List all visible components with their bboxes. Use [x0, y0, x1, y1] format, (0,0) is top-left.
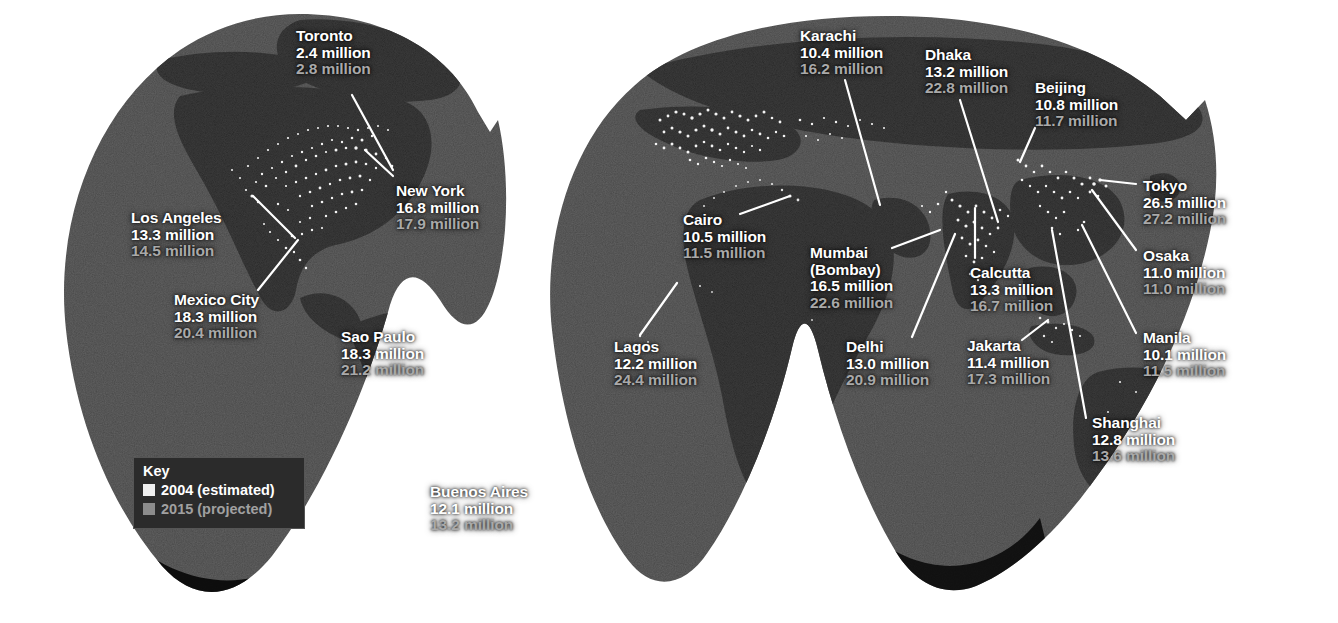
city-pop-2004-manila: 10.1 million: [1143, 347, 1226, 364]
city-label-osaka: Osaka11.0 million11.0 million: [1143, 248, 1225, 298]
key-swatch-2004: [143, 484, 155, 496]
city-name-los-angeles: Los Angeles: [131, 210, 222, 227]
city-pop-2015-calcutta: 16.7 million: [970, 298, 1053, 315]
city-label-cairo: Cairo10.5 million11.5 million: [683, 212, 766, 262]
city-pop-2015-manila: 11.5 million: [1143, 363, 1226, 380]
leader-line-sao-paulo: [424, 340, 495, 392]
key-label-2004: 2004 (estimated): [161, 483, 275, 498]
city-label-tokyo: Tokyo26.5 million27.2 million: [1143, 178, 1226, 228]
city-name-osaka: Osaka: [1143, 248, 1225, 265]
city-pop-2015-mumbai: 22.6 million: [810, 295, 893, 312]
city-pop-2015-beijing: 11.7 million: [1035, 113, 1118, 130]
city-label-delhi: Delhi13.0 million20.9 million: [846, 339, 929, 389]
city-name-new-york: New York: [396, 183, 479, 200]
city-pop-2004-shanghai: 12.8 million: [1092, 432, 1175, 449]
city-pop-2004-tokyo: 26.5 million: [1143, 195, 1226, 212]
city-pop-2015-tokyo: 27.2 million: [1143, 211, 1226, 228]
city-pop-2015-osaka: 11.0 million: [1143, 281, 1225, 298]
city-name-shanghai: Shanghai: [1092, 415, 1175, 432]
city-name-jakarta: Jakarta: [967, 338, 1050, 355]
city-pop-2015-los-angeles: 14.5 million: [131, 243, 222, 260]
city-name-alt-mumbai: (Bombay): [810, 262, 893, 279]
city-name-dhaka: Dhaka: [925, 47, 1008, 64]
city-name-manila: Manila: [1143, 330, 1226, 347]
city-name-buenos-aires: Buenos Aires: [430, 484, 528, 501]
city-pop-2015-toronto: 2.8 million: [296, 61, 371, 78]
city-pop-2015-buenos-aires: 13.2 million: [430, 517, 528, 534]
city-pop-2004-beijing: 10.8 million: [1035, 97, 1118, 114]
city-name-calcutta: Calcutta: [970, 265, 1053, 282]
city-name-sao-paulo: Sao Paulo: [341, 329, 424, 346]
city-pop-2004-los-angeles: 13.3 million: [131, 227, 222, 244]
city-pop-2004-new-york: 16.8 million: [396, 200, 479, 217]
city-pop-2004-lagos: 12.2 million: [614, 356, 697, 373]
city-name-mumbai: Mumbai: [810, 245, 893, 262]
city-pop-2015-karachi: 16.2 million: [800, 61, 883, 78]
key-label-2015: 2015 (projected): [161, 502, 272, 517]
city-name-cairo: Cairo: [683, 212, 766, 229]
city-pop-2004-jakarta: 11.4 million: [967, 355, 1050, 372]
city-pop-2004-calcutta: 13.3 million: [970, 282, 1053, 299]
key-row-2004: 2004 (estimated): [143, 481, 304, 500]
city-pop-2004-toronto: 2.4 million: [296, 45, 371, 62]
city-pop-2015-new-york: 17.9 million: [396, 216, 479, 233]
city-label-dhaka: Dhaka13.2 million22.8 million: [925, 47, 1008, 97]
city-name-delhi: Delhi: [846, 339, 929, 356]
city-name-mexico-city: Mexico City: [174, 292, 259, 309]
city-label-mexico-city: Mexico City18.3 million20.4 million: [174, 292, 259, 342]
city-label-beijing: Beijing10.8 million11.7 million: [1035, 80, 1118, 130]
city-pop-2015-cairo: 11.5 million: [683, 245, 766, 262]
city-name-toronto: Toronto: [296, 28, 371, 45]
city-name-tokyo: Tokyo: [1143, 178, 1226, 195]
map-key: Key 2004 (estimated) 2015 (projected): [133, 457, 305, 529]
city-label-los-angeles: Los Angeles13.3 million14.5 million: [131, 210, 222, 260]
world-map-figure: Toronto2.4 million2.8 millionNew York16.…: [0, 0, 1338, 623]
city-label-jakarta: Jakarta11.4 million17.3 million: [967, 338, 1050, 388]
city-name-beijing: Beijing: [1035, 80, 1118, 97]
city-label-shanghai: Shanghai12.8 million13.6 million: [1092, 415, 1175, 465]
key-title: Key: [143, 463, 304, 480]
city-pop-2004-karachi: 10.4 million: [800, 45, 883, 62]
city-label-toronto: Toronto2.4 million2.8 million: [296, 28, 371, 78]
city-name-lagos: Lagos: [614, 339, 697, 356]
city-pop-2004-mexico-city: 18.3 million: [174, 309, 259, 326]
key-row-2015: 2015 (projected): [143, 500, 304, 519]
city-label-sao-paulo: Sao Paulo18.3 million21.2 million: [341, 329, 424, 379]
city-pop-2015-mexico-city: 20.4 million: [174, 325, 259, 342]
city-pop-2004-sao-paulo: 18.3 million: [341, 346, 424, 363]
city-pop-2004-dhaka: 13.2 million: [925, 64, 1008, 81]
city-label-mumbai: Mumbai(Bombay)16.5 million22.6 million: [810, 245, 893, 312]
city-pop-2015-sao-paulo: 21.2 million: [341, 362, 424, 379]
city-label-new-york: New York16.8 million17.9 million: [396, 183, 479, 233]
key-swatch-2015: [143, 503, 155, 515]
city-pop-2015-shanghai: 13.6 million: [1092, 448, 1175, 465]
city-pop-2015-delhi: 20.9 million: [846, 372, 929, 389]
city-label-lagos: Lagos12.2 million24.4 million: [614, 339, 697, 389]
city-label-manila: Manila10.1 million11.5 million: [1143, 330, 1226, 380]
city-pop-2015-lagos: 24.4 million: [614, 372, 697, 389]
city-pop-2015-jakarta: 17.3 million: [967, 371, 1050, 388]
city-label-karachi: Karachi10.4 million16.2 million: [800, 28, 883, 78]
city-pop-2004-osaka: 11.0 million: [1143, 265, 1225, 282]
city-pop-2004-mumbai: 16.5 million: [810, 278, 893, 295]
city-label-calcutta: Calcutta13.3 million16.7 million: [970, 265, 1053, 315]
city-pop-2004-buenos-aires: 12.1 million: [430, 501, 528, 518]
city-pop-2004-cairo: 10.5 million: [683, 229, 766, 246]
leader-line-buenos-aires: [437, 420, 456, 478]
city-label-buenos-aires: Buenos Aires12.1 million13.2 million: [430, 484, 528, 534]
city-pop-2004-delhi: 13.0 million: [846, 356, 929, 373]
city-pop-2015-dhaka: 22.8 million: [925, 80, 1008, 97]
city-name-karachi: Karachi: [800, 28, 883, 45]
